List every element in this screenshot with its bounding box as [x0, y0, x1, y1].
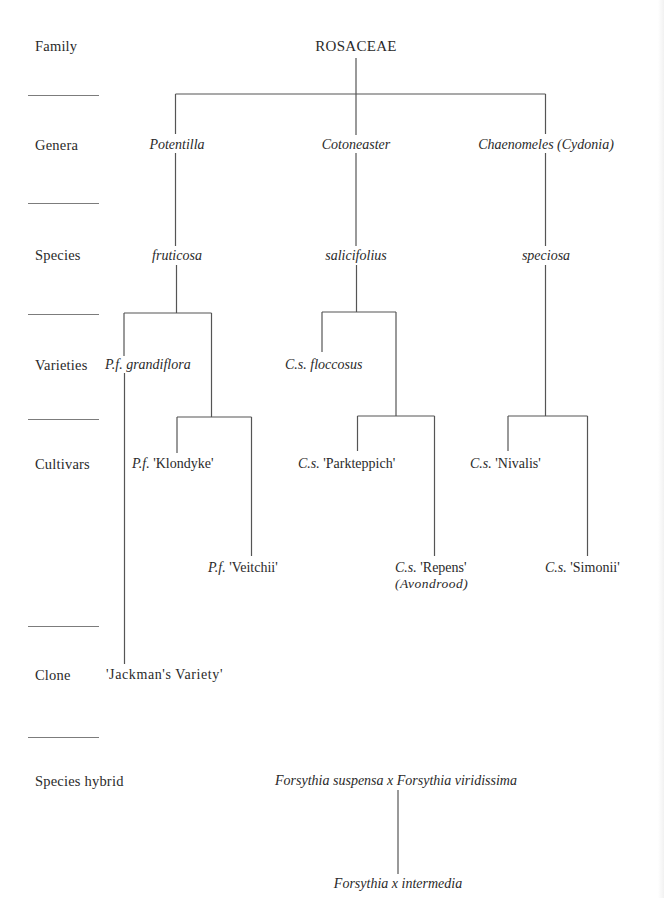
species-node-fruticosa: fruticosa: [151, 248, 203, 264]
cultivar-name: 'Repens': [420, 560, 466, 575]
genus-node-chaenomeles: Chaenomeles (Cydonia): [477, 137, 615, 153]
species-node-salicifolius: salicifolius: [324, 248, 387, 264]
cultivar-abbr: C.s.: [545, 560, 567, 575]
cultivar-name: 'Simonii': [570, 560, 619, 575]
cultivar-name: 'Parkteppich': [323, 456, 395, 471]
clone-node-jackmans-variety: 'Jackman's Variety': [105, 667, 224, 683]
hybrid-parents-node: Forsythia suspensa x Forsythia viridissi…: [274, 773, 518, 789]
cultivar-node-cs-nivalis: C.s. 'Nivalis': [469, 456, 542, 472]
cultivar-name: 'Klondyke': [153, 456, 213, 471]
cultivar-node-cs-simonii: C.s. 'Simonii': [544, 560, 621, 576]
variety-abbr: P.f.: [105, 357, 123, 372]
species-node-speciosa: speciosa: [521, 248, 571, 264]
genus-node-potentilla: Potentilla: [148, 137, 205, 153]
hybrid-result-node: Forsythia x intermedia: [333, 876, 463, 892]
cultivar-node-pf-veitchii: P.f. 'Veitchii': [207, 560, 279, 576]
cultivar-node-cs-repens: C.s. 'Repens' (Avondrood): [394, 560, 469, 592]
variety-name: floccosus: [310, 357, 362, 372]
cultivar-node-pf-klondyke: P.f. 'Klondyke': [131, 456, 214, 472]
variety-node-pf-grandiflora: P.f. grandiflora: [104, 357, 192, 373]
cultivar-abbr: P.f.: [208, 560, 226, 575]
cultivar-synonym: (Avondrood): [395, 576, 468, 592]
tree-connectors: [0, 0, 664, 898]
variety-abbr: C.s.: [285, 357, 307, 372]
cultivar-node-cs-parkteppich: C.s. 'Parkteppich': [297, 456, 396, 472]
variety-name: grandiflora: [126, 357, 191, 372]
variety-node-cs-floccosus: C.s. floccosus: [284, 357, 363, 373]
cultivar-abbr: C.s.: [470, 456, 492, 471]
genus-node-cotoneaster: Cotoneaster: [321, 137, 391, 153]
cultivar-name: 'Nivalis': [495, 456, 541, 471]
cultivar-abbr: C.s.: [395, 560, 417, 575]
cultivar-abbr: C.s.: [298, 456, 320, 471]
cultivar-abbr: P.f.: [132, 456, 150, 471]
family-node-rosaceae: ROSACEAE: [314, 38, 398, 54]
cultivar-name: 'Veitchii': [229, 560, 278, 575]
